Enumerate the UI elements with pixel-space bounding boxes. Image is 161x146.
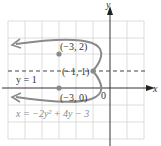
point-vertex xyxy=(90,68,95,73)
x-axis-label: x xyxy=(152,83,158,94)
point-label-neg3-0: (−3, 0) xyxy=(60,92,87,104)
y-axis xyxy=(107,6,113,146)
equation-label: x = −2y² + 4y − 3 xyxy=(15,108,89,119)
point-label-vertex: (−1, 1) xyxy=(62,66,89,78)
y-axis-label: y xyxy=(105,0,111,10)
point-label-neg3-2: (−3, 2) xyxy=(60,41,87,53)
parabola-graph: y x 0 (−3, 2) (−1, 1) (−3, 0) y = 1 x = … xyxy=(0,0,161,146)
origin-label: 0 xyxy=(101,90,106,101)
symmetry-label: y = 1 xyxy=(16,74,37,85)
point-neg3-0 xyxy=(56,85,61,90)
point-neg3-2 xyxy=(56,51,61,56)
